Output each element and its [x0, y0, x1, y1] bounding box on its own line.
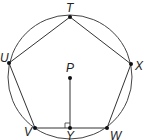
point-V: [33, 126, 37, 130]
label-V: V: [24, 125, 33, 139]
label-T: T: [66, 1, 75, 15]
pentagon-diagram: T U X V W P Y: [0, 0, 145, 140]
point-T: [68, 15, 72, 19]
label-U: U: [0, 51, 9, 65]
label-Y: Y: [66, 129, 75, 140]
point-X: [129, 62, 133, 66]
label-P: P: [66, 61, 74, 75]
label-W: W: [110, 129, 123, 140]
label-X: X: [134, 59, 144, 73]
point-W: [105, 126, 109, 130]
point-P: [68, 76, 72, 80]
